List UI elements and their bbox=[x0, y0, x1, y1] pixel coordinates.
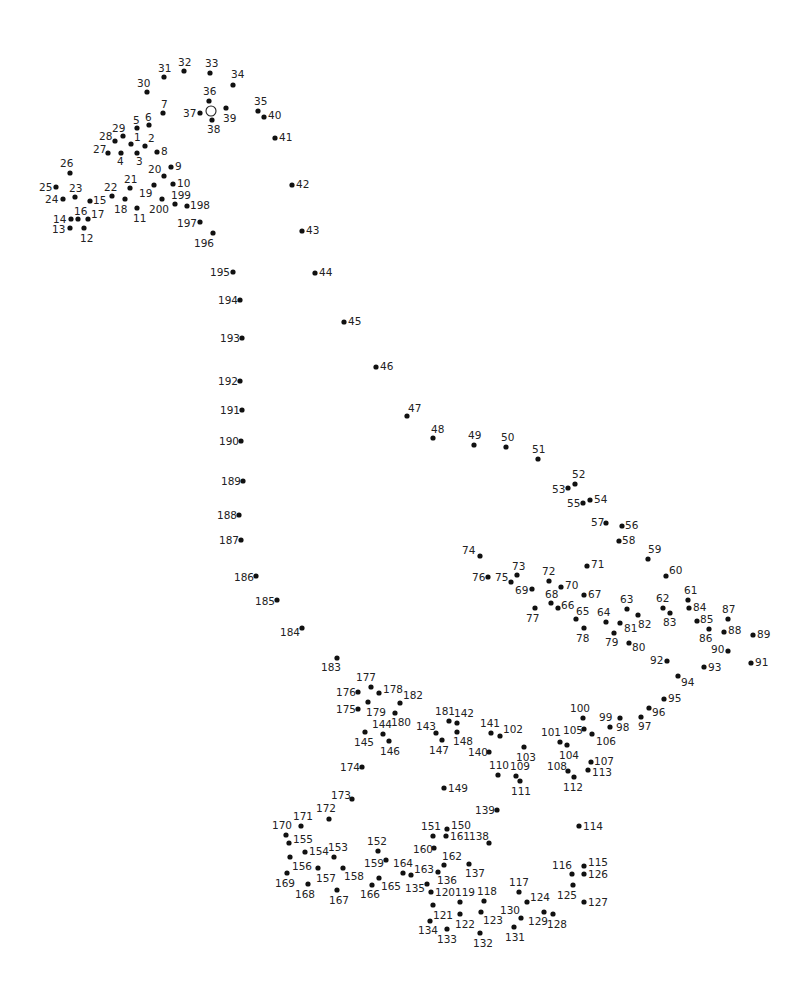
puzzle-dot bbox=[516, 889, 521, 894]
puzzle-dot bbox=[471, 442, 476, 447]
puzzle-dot bbox=[120, 133, 125, 138]
dot-number-label: 130 bbox=[500, 904, 520, 916]
dot-number-label: 115 bbox=[588, 856, 608, 868]
puzzle-dot bbox=[430, 833, 435, 838]
dot-number-label: 148 bbox=[453, 735, 473, 747]
dot-number-label: 28 bbox=[99, 130, 112, 142]
dot-number-label: 193 bbox=[220, 332, 240, 344]
puzzle-dot bbox=[564, 742, 569, 747]
dot-number-label: 59 bbox=[648, 543, 661, 555]
puzzle-dot bbox=[430, 902, 435, 907]
puzzle-dot bbox=[511, 924, 516, 929]
puzzle-dot bbox=[555, 605, 560, 610]
puzzle-dot bbox=[315, 865, 320, 870]
puzzle-dot bbox=[197, 219, 202, 224]
dot-number-label: 142 bbox=[454, 707, 474, 719]
dot-number-label: 52 bbox=[572, 468, 585, 480]
dot-number-label: 106 bbox=[596, 735, 616, 747]
puzzle-dot bbox=[181, 68, 186, 73]
puzzle-dot bbox=[587, 497, 592, 502]
dot-number-label: 38 bbox=[207, 123, 220, 135]
puzzle-dot bbox=[725, 648, 730, 653]
dot-number-label: 114 bbox=[583, 820, 603, 832]
dot-number-label: 49 bbox=[468, 429, 481, 441]
puzzle-dot bbox=[635, 612, 640, 617]
dot-number-label: 23 bbox=[69, 182, 82, 194]
dot-number-label: 133 bbox=[437, 933, 457, 945]
dot-number-label: 65 bbox=[576, 605, 589, 617]
dot-number-label: 19 bbox=[139, 187, 152, 199]
puzzle-dot bbox=[75, 216, 80, 221]
dot-number-label: 140 bbox=[468, 746, 488, 758]
puzzle-dot bbox=[369, 882, 374, 887]
puzzle-dot bbox=[81, 225, 86, 230]
puzzle-dot bbox=[558, 584, 563, 589]
dot-number-label: 18 bbox=[114, 203, 127, 215]
puzzle-dot bbox=[134, 125, 139, 130]
puzzle-dot bbox=[253, 573, 258, 578]
puzzle-dot bbox=[721, 629, 726, 634]
dot-number-label: 47 bbox=[408, 402, 421, 414]
dot-number-label: 190 bbox=[219, 435, 239, 447]
puzzle-dot bbox=[748, 660, 753, 665]
puzzle-dot bbox=[392, 710, 397, 715]
dot-number-label: 166 bbox=[360, 888, 380, 900]
dot-number-label: 46 bbox=[380, 360, 394, 372]
dot-number-label: 94 bbox=[681, 676, 695, 688]
puzzle-dot bbox=[607, 724, 612, 729]
puzzle-dot bbox=[485, 574, 490, 579]
dot-number-label: 16 bbox=[74, 205, 88, 217]
dot-number-label: 26 bbox=[60, 157, 74, 169]
dot-number-label: 60 bbox=[669, 564, 682, 576]
puzzle-dot bbox=[287, 854, 292, 859]
dot-number-label: 164 bbox=[393, 857, 413, 869]
puzzle-dot bbox=[581, 863, 586, 868]
dot-number-label: 160 bbox=[413, 843, 433, 855]
dot-number-label: 146 bbox=[380, 745, 400, 757]
dot-number-label: 187 bbox=[219, 534, 239, 546]
dot-number-label: 74 bbox=[462, 544, 476, 556]
dot-number-label: 29 bbox=[112, 122, 125, 134]
puzzle-dot bbox=[239, 335, 244, 340]
dot-number-label: 57 bbox=[591, 516, 604, 528]
dot-number-label: 161 bbox=[450, 830, 470, 842]
puzzle-dot bbox=[404, 413, 409, 418]
dot-number-label: 88 bbox=[728, 624, 741, 636]
dot-number-label: 152 bbox=[367, 835, 387, 847]
dot-number-label: 9 bbox=[175, 160, 182, 172]
dot-number-label: 35 bbox=[254, 95, 267, 107]
puzzle-dot bbox=[355, 689, 360, 694]
dot-number-label: 163 bbox=[414, 863, 434, 875]
puzzle-dot bbox=[240, 478, 245, 483]
puzzle-dot bbox=[706, 626, 711, 631]
dot-number-label: 90 bbox=[711, 643, 724, 655]
puzzle-dot bbox=[584, 563, 589, 568]
dot-number-label: 40 bbox=[268, 109, 281, 121]
dot-number-label: 200 bbox=[149, 203, 169, 215]
dot-number-label: 158 bbox=[344, 870, 364, 882]
dot-number-label: 169 bbox=[275, 877, 295, 889]
dot-number-label: 184 bbox=[280, 626, 300, 638]
dot-number-label: 188 bbox=[217, 509, 237, 521]
dot-number-label: 101 bbox=[541, 726, 561, 738]
dot-number-label: 76 bbox=[472, 571, 486, 583]
puzzle-dot bbox=[663, 573, 668, 578]
puzzle-dot bbox=[444, 826, 449, 831]
puzzle-dot bbox=[514, 572, 519, 577]
puzzle-dot bbox=[355, 706, 360, 711]
puzzle-dot bbox=[85, 216, 90, 221]
dot-number-label: 119 bbox=[455, 886, 475, 898]
puzzle-dot bbox=[488, 730, 493, 735]
dot-number-label: 141 bbox=[480, 717, 500, 729]
dot-number-label: 134 bbox=[418, 924, 438, 936]
puzzle-dot bbox=[638, 714, 643, 719]
dot-number-label: 22 bbox=[104, 181, 117, 193]
dot-number-label: 178 bbox=[383, 683, 403, 695]
puzzle-dot bbox=[67, 225, 72, 230]
puzzle-dot bbox=[430, 435, 435, 440]
dot-number-label: 192 bbox=[218, 375, 238, 387]
puzzle-dot bbox=[134, 205, 139, 210]
dot-number-label: 25 bbox=[39, 181, 52, 193]
puzzle-dot bbox=[497, 733, 502, 738]
dot-number-label: 194 bbox=[218, 294, 238, 306]
